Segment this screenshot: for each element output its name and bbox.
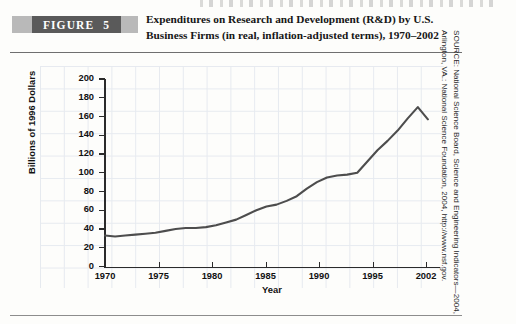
figure-number-banner: FIGURE 5 — [12, 16, 138, 33]
series-line-rnd-expenditures — [105, 107, 428, 236]
figure-title: Expenditures on Research and Development… — [146, 12, 456, 43]
chart: Billions of 1996 Dollars 020406080100120… — [30, 66, 450, 296]
banner-center-block: FIGURE 5 — [32, 16, 121, 33]
page-background: FIGURE 5 Expenditures on Research and De… — [0, 0, 516, 324]
banner-right-block — [121, 16, 138, 33]
x-axis-title: Year — [104, 284, 440, 295]
banner-left-block — [12, 16, 32, 33]
footer-divider — [10, 315, 462, 316]
figure-word-label: FIGURE — [43, 19, 94, 31]
data-series-layer — [30, 66, 450, 296]
scan-artifact-top-text — [200, 0, 500, 7]
header-divider — [10, 52, 462, 53]
figure-header: FIGURE 5 Expenditures on Research and De… — [0, 12, 462, 56]
figure-number-label: 5 — [103, 19, 110, 31]
